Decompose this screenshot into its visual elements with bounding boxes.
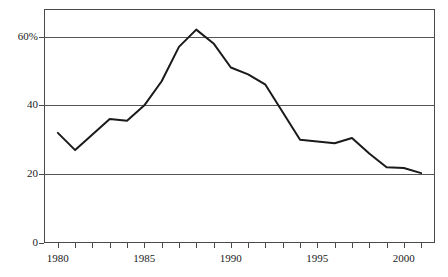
x-tick-mark-1989 [214, 243, 215, 248]
x-tick-mark-1988 [196, 243, 197, 248]
x-tick-mark-1980 [58, 243, 59, 248]
x-tick-mark-1997 [352, 243, 353, 248]
line-series-svg [44, 9, 435, 243]
x-tick-mark-1987 [179, 243, 180, 248]
y-tick-mark-0 [39, 243, 44, 244]
x-tick-mark-2000 [404, 243, 405, 248]
x-tick-mark-1983 [110, 243, 111, 248]
x-tick-mark-1998 [369, 243, 370, 248]
y-tick-mark-60 [39, 37, 44, 38]
y-tick-label-60: 60% [18, 31, 38, 42]
x-tick-mark-1985 [144, 243, 145, 248]
y-axis-labels: 0204060% [0, 0, 38, 277]
line-series-path [58, 30, 421, 173]
y-tick-label-40: 40 [27, 99, 38, 110]
x-tick-mark-1984 [127, 243, 128, 248]
y-tick-label-20: 20 [27, 168, 38, 179]
x-tick-mark-1981 [75, 243, 76, 248]
y-tick-mark-40 [39, 105, 44, 106]
x-tick-label-2000: 2000 [393, 252, 415, 264]
x-tick-mark-1982 [92, 243, 93, 248]
x-tick-mark-1991 [248, 243, 249, 248]
x-tick-label-1985: 1985 [133, 252, 155, 264]
x-tick-mark-1999 [387, 243, 388, 248]
x-tick-label-1990: 1990 [220, 252, 242, 264]
x-tick-mark-1990 [231, 243, 232, 248]
x-tick-mark-1995 [317, 243, 318, 248]
y-tick-label-0: 0 [33, 237, 39, 248]
y-tick-mark-20 [39, 174, 44, 175]
x-tick-label-1980: 1980 [47, 252, 69, 264]
x-tick-mark-1994 [300, 243, 301, 248]
x-tick-label-1995: 1995 [306, 252, 328, 264]
x-tick-mark-1986 [162, 243, 163, 248]
x-tick-mark-2001 [421, 243, 422, 248]
x-tick-mark-1992 [265, 243, 266, 248]
x-tick-mark-1996 [335, 243, 336, 248]
chart-figure: 0204060% 19801985199019952000 [0, 0, 448, 277]
x-tick-mark-1993 [283, 243, 284, 248]
